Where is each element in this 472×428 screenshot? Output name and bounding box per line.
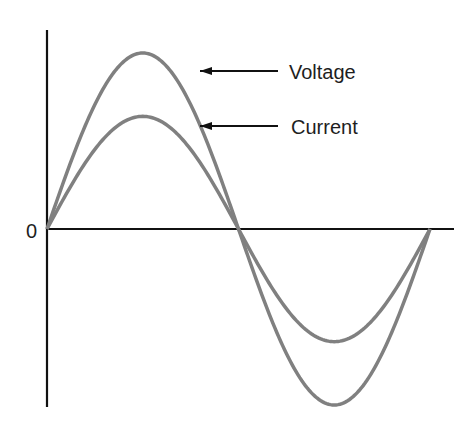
waveform-diagram: Voltage Current 0	[0, 0, 472, 428]
voltage-label: Voltage	[289, 61, 356, 83]
origin-label: 0	[26, 220, 37, 242]
current-label: Current	[291, 116, 358, 138]
